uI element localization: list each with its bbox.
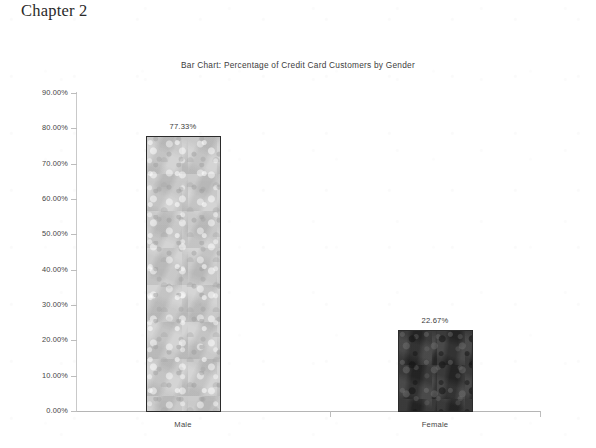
y-axis-label-text: 20.00%: [8, 335, 68, 344]
y-axis-tick: [71, 128, 77, 129]
y-axis-label-text: 80.00%: [8, 123, 68, 132]
y-axis-tick: [71, 164, 77, 165]
y-axis-tick: [71, 270, 77, 271]
bar-female[interactable]: [398, 330, 473, 412]
y-axis-label-20: 20.00%: [6, 335, 68, 345]
x-axis-label-female: Female: [375, 420, 495, 429]
y-axis-label-70: 70.00%: [6, 159, 68, 169]
bar-male[interactable]: [146, 136, 221, 412]
y-axis-label-80: 80.00%: [6, 123, 68, 133]
bar-value-label-male: 77.33%: [128, 122, 238, 131]
y-axis-line: [76, 92, 77, 412]
x-axis-tick: [330, 411, 331, 417]
y-axis-label-40: 40.00%: [6, 265, 68, 275]
y-axis-label-text: 90.00%: [8, 88, 68, 97]
y-axis-label-text: 40.00%: [8, 265, 68, 274]
y-axis-tick: [71, 234, 77, 235]
x-axis-label-male: Male: [123, 420, 243, 429]
document-page: Chapter 2 Bar Chart: Percentage of Credi…: [0, 0, 596, 448]
bar-value-label-female: 22.67%: [380, 316, 490, 325]
y-axis-label-text: 10.00%: [8, 371, 68, 380]
y-axis-tick: [71, 305, 77, 306]
y-axis-label-50: 50.00%: [6, 229, 68, 239]
bar-chart: Bar Chart: Percentage of Credit Card Cus…: [0, 0, 596, 448]
y-axis-label-text: 0.00%: [8, 406, 68, 415]
y-axis-tick: [71, 93, 77, 94]
y-axis-label-text: 30.00%: [8, 300, 68, 309]
y-axis-label-text: 50.00%: [8, 229, 68, 238]
y-axis-label-0: 0.00%: [6, 406, 68, 416]
x-axis-tick: [540, 411, 541, 417]
y-axis-label-10: 10.00%: [6, 371, 68, 381]
y-axis-label-text: 70.00%: [8, 159, 68, 168]
y-axis-label-60: 60.00%: [6, 194, 68, 204]
y-axis-label-30: 30.00%: [6, 300, 68, 310]
y-axis-tick: [71, 340, 77, 341]
chart-title: Bar Chart: Percentage of Credit Card Cus…: [0, 60, 596, 70]
y-axis-tick: [71, 376, 77, 377]
y-axis-tick: [71, 411, 77, 412]
y-axis-label-90: 90.00%: [6, 88, 68, 98]
y-axis-label-text: 60.00%: [8, 194, 68, 203]
y-axis-tick: [71, 199, 77, 200]
